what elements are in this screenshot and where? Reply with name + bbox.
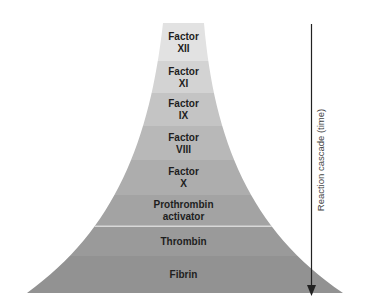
axis-label-reaction-cascade: Reaction cascade (time): [315, 109, 326, 211]
stage-label-6-line-0: Thrombin: [160, 236, 206, 247]
coagulation-cascade-diagram: FactorXIIFactorXIFactorIXFactorVIIIFacto…: [0, 0, 365, 307]
stage-label-2-line-0: Factor: [168, 98, 199, 109]
stage-label-5-line-0: Prothrombin: [154, 199, 214, 210]
stage-label-4-line-1: X: [180, 178, 187, 189]
cascade-bands: [0, 23, 365, 293]
stage-label-4-line-0: Factor: [168, 166, 199, 177]
stage-label-1-line-0: Factor: [168, 66, 199, 77]
stage-label-0-line-0: Factor: [168, 31, 199, 42]
stage-label-0-line-1: XII: [177, 43, 189, 54]
stage-label-3-line-1: VIII: [176, 144, 191, 155]
stage-label-2-line-1: IX: [179, 110, 189, 121]
stage-label-3-line-0: Factor: [168, 132, 199, 143]
stage-label-7-line-0: Fibrin: [170, 269, 198, 280]
band-separator: [0, 226, 365, 228]
stage-label-1-line-1: XI: [179, 78, 189, 89]
stage-label-5-line-1: activator: [163, 211, 205, 222]
